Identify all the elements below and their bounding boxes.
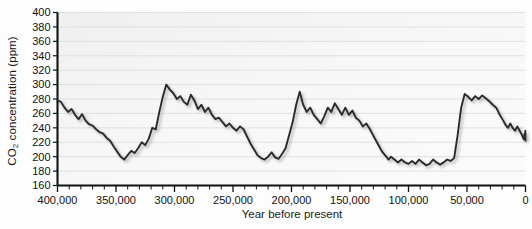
y-axis-tick-labels: 400380360340320300280260240220200180160 bbox=[32, 6, 50, 191]
svg-text:320: 320 bbox=[32, 64, 50, 76]
svg-text:50,000: 50,000 bbox=[450, 194, 484, 206]
svg-text:260: 260 bbox=[32, 107, 50, 119]
svg-text:380: 380 bbox=[32, 21, 50, 33]
svg-text:300,000: 300,000 bbox=[155, 194, 195, 206]
svg-text:200: 200 bbox=[32, 151, 50, 163]
svg-text:160: 160 bbox=[32, 179, 50, 191]
x-axis-tick-labels: 400,000350,000300,000250,000200,000150,0… bbox=[38, 194, 529, 206]
svg-text:200,000: 200,000 bbox=[272, 194, 312, 206]
svg-text:250,000: 250,000 bbox=[213, 194, 253, 206]
chart-svg: 400380360340320300280260240220200180160 … bbox=[0, 0, 532, 229]
svg-text:360: 360 bbox=[32, 35, 50, 47]
svg-text:280: 280 bbox=[32, 93, 50, 105]
co2-ice-core-chart: CO2 concentration (ppm) Year before pres… bbox=[0, 0, 532, 229]
svg-text:340: 340 bbox=[32, 50, 50, 62]
svg-text:100,000: 100,000 bbox=[389, 194, 429, 206]
svg-text:150,000: 150,000 bbox=[330, 194, 370, 206]
svg-text:300: 300 bbox=[32, 78, 50, 90]
svg-text:400,000: 400,000 bbox=[38, 194, 78, 206]
svg-text:400: 400 bbox=[32, 6, 50, 18]
svg-text:0: 0 bbox=[522, 194, 528, 206]
svg-text:220: 220 bbox=[32, 136, 50, 148]
svg-text:350,000: 350,000 bbox=[96, 194, 136, 206]
svg-text:180: 180 bbox=[32, 165, 50, 177]
svg-text:240: 240 bbox=[32, 122, 50, 134]
